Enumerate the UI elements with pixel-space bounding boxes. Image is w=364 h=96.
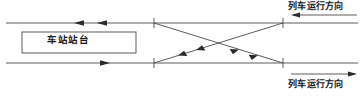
arrow-right-icon xyxy=(100,60,110,66)
arrow-left-icon xyxy=(97,20,107,26)
direction-label-top: 列车运行方向 xyxy=(288,2,344,11)
track-layout-diagram: 车站站台 列车运行方向 列车运行方向 xyxy=(0,0,364,96)
arrow-down-right-icon xyxy=(230,49,239,54)
arrow-down-right-icon xyxy=(249,55,258,60)
direction-arrow-bottom xyxy=(291,71,357,76)
direction-arrow-top xyxy=(291,12,357,17)
platform-label: 车站站台 xyxy=(47,36,89,46)
arrow-left-icon xyxy=(74,20,84,26)
direction-label-bottom: 列车运行方向 xyxy=(288,80,344,89)
